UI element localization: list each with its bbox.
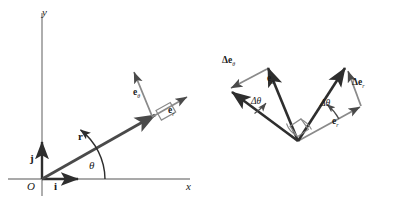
delta-e-theta-subscript: θ xyxy=(232,61,235,67)
delta-theta-label-left: Δθ xyxy=(251,97,261,107)
e-theta-label-right: eθ xyxy=(267,74,274,86)
delta-e-r-label: Δer xyxy=(352,78,364,90)
unit-vector-i-label: i xyxy=(54,181,57,192)
e-theta-subscript-left: θ xyxy=(137,93,140,99)
x-axis-label: x xyxy=(186,181,191,192)
vector-diagram-figure: y x O j i r θ eθ er Δeθ eθ Δer er Δθ Δθ xyxy=(0,0,394,203)
delta-e-r-base: Δe xyxy=(352,77,362,87)
e-r-subscript-left: r xyxy=(172,111,174,117)
theta-label: θ xyxy=(89,160,94,171)
delta-e-r-subscript: r xyxy=(362,83,364,89)
e-theta-label-left: eθ xyxy=(133,88,140,100)
vector-delta-e-theta xyxy=(231,69,267,88)
y-axis-label: y xyxy=(42,7,47,18)
position-vector-r xyxy=(42,115,155,179)
e-theta-subscript-right: θ xyxy=(271,79,274,85)
position-vector-r-label: r xyxy=(78,131,83,142)
diagram-canvas xyxy=(0,0,394,203)
e-r-label-left: er xyxy=(168,106,175,118)
e-r-subscript-right: r xyxy=(336,122,338,128)
delta-theta-label-right: Δθ xyxy=(320,99,330,109)
unit-vector-j-label: j xyxy=(30,153,34,164)
delta-e-theta-label: Δeθ xyxy=(222,56,235,68)
origin-label: O xyxy=(27,181,35,192)
left-diagram-group xyxy=(8,13,190,196)
e-r-label-right: er xyxy=(332,117,339,129)
delta-e-theta-base: Δe xyxy=(222,55,232,65)
